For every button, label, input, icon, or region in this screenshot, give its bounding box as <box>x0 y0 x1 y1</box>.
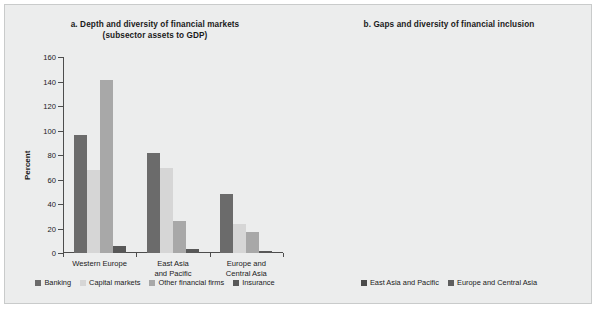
legend-swatch-icon <box>361 280 367 286</box>
legend-item[interactable]: Other financial firms <box>149 278 224 287</box>
legend-item[interactable]: East Asia and Pacific <box>361 278 439 287</box>
chart-b-title-line1: b. Gaps and diversity of financial inclu… <box>305 19 593 30</box>
x-category-label: Western Europe <box>63 259 136 269</box>
legend-swatch-icon <box>80 280 86 286</box>
y-tick <box>58 204 63 205</box>
chart-b-legend: East Asia and PacificEurope and Central … <box>305 278 593 287</box>
legend-swatch-icon <box>149 280 155 286</box>
legend-label: Capital markets <box>89 278 140 287</box>
legend-label: Insurance <box>242 278 274 287</box>
bar <box>147 153 160 253</box>
y-tick-label: 140 <box>43 77 56 86</box>
legend-label: Other financial firms <box>158 278 224 287</box>
bar <box>74 135 87 253</box>
legend-label: Europe and Central Asia <box>457 278 537 287</box>
y-tick-label: 120 <box>43 102 56 111</box>
y-tick <box>58 131 63 132</box>
y-tick <box>58 155 63 156</box>
y-tick <box>58 180 63 181</box>
bar <box>87 170 100 253</box>
bar <box>220 194 233 253</box>
chart-panel-b: b. Gaps and diversity of financial inclu… <box>305 5 593 303</box>
bar <box>233 224 246 253</box>
y-tick-label: 160 <box>43 53 56 62</box>
legend-label: Banking <box>44 278 71 287</box>
legend-swatch-icon <box>448 280 454 286</box>
chart-b-title: b. Gaps and diversity of financial inclu… <box>305 19 593 30</box>
y-tick-label: 0 <box>52 249 56 258</box>
x-tick <box>283 253 284 257</box>
bar <box>113 246 126 253</box>
y-tick-label: 20 <box>48 224 56 233</box>
x-category-label: Europe and Central Asia <box>210 259 283 278</box>
chart-a-y-axis-label: Percent <box>23 151 32 180</box>
bar <box>100 80 113 253</box>
y-tick <box>58 82 63 83</box>
legend-swatch-icon <box>233 280 239 286</box>
legend-item[interactable]: Banking <box>35 278 71 287</box>
bar-group <box>147 57 199 253</box>
x-tick <box>136 253 137 257</box>
legend-swatch-icon <box>35 280 41 286</box>
chart-panel-a: a. Depth and diversity of financial mark… <box>5 5 305 303</box>
bar <box>173 221 186 253</box>
x-category-label: East Asia and Pacific <box>136 259 209 278</box>
chart-a-title-line2: (subsector assets to GDP) <box>5 30 305 41</box>
legend-label: East Asia and Pacific <box>370 278 439 287</box>
y-tick <box>58 106 63 107</box>
y-tick-label: 60 <box>48 175 56 184</box>
chart-a-title-line1: a. Depth and diversity of financial mark… <box>5 19 305 30</box>
chart-a-y-axis-line <box>63 57 64 253</box>
chart-a-plot-area: 020406080100120140160 <box>63 57 283 253</box>
bar <box>246 232 259 253</box>
chart-a-title: a. Depth and diversity of financial mark… <box>5 19 305 41</box>
bar-group <box>74 57 126 253</box>
bar <box>186 249 199 253</box>
y-tick <box>58 57 63 58</box>
y-tick-label: 80 <box>48 151 56 160</box>
legend-item[interactable]: Capital markets <box>80 278 140 287</box>
legend-item[interactable]: Europe and Central Asia <box>448 278 537 287</box>
chart-a-legend: BankingCapital marketsOther financial fi… <box>5 278 305 287</box>
legend-item[interactable]: Insurance <box>233 278 274 287</box>
y-tick-label: 100 <box>43 126 56 135</box>
bar-group <box>220 57 272 253</box>
y-tick-label: 40 <box>48 200 56 209</box>
x-tick <box>210 253 211 257</box>
y-tick <box>58 229 63 230</box>
x-tick <box>63 253 64 257</box>
figure-container: a. Depth and diversity of financial mark… <box>4 4 592 304</box>
bar <box>160 168 173 253</box>
bar <box>259 251 272 253</box>
